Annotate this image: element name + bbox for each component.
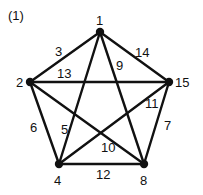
edge-label: 5: [61, 122, 68, 137]
node-label: 2: [16, 75, 23, 90]
edge-label: 11: [145, 96, 159, 111]
node-1: [96, 28, 104, 36]
edge-label: 7: [164, 118, 171, 133]
edge-2-8: [30, 82, 144, 164]
edge-label: 3: [55, 44, 62, 59]
graph-diagram: 314135967101112121548: [0, 0, 203, 195]
edge-label: 9: [116, 58, 123, 73]
node-label: 1: [96, 13, 103, 28]
edge-label: 14: [135, 45, 149, 60]
node-15: [165, 78, 173, 86]
edge-label: 10: [101, 140, 115, 155]
node-4: [55, 160, 63, 168]
edge-label: 6: [30, 120, 37, 135]
node-8: [140, 160, 148, 168]
edge-label: 12: [96, 167, 110, 182]
node-label: 4: [54, 173, 61, 188]
edge-1-4: [59, 32, 100, 164]
node-label: 15: [175, 75, 189, 90]
node-label: 8: [140, 173, 147, 188]
edge-label: 13: [57, 66, 71, 81]
node-2: [26, 78, 34, 86]
